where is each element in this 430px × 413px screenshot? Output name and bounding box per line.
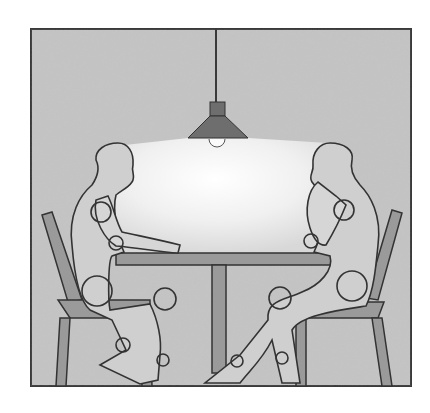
illustration [0, 0, 430, 413]
lamp-socket [210, 102, 225, 116]
